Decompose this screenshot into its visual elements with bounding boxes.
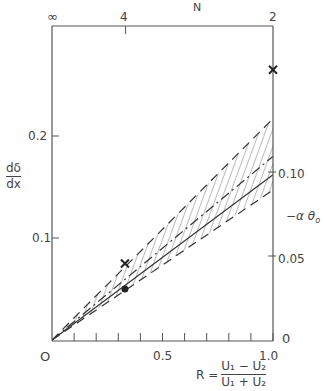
left-axis-title: dδ dx [6, 162, 21, 191]
top-tick-label-infinity: ∞ [47, 10, 58, 23]
top-axis-title: N [193, 2, 201, 13]
r-numerator: U₁ − U₂ [221, 360, 266, 373]
bottom-axis-title: R = U₁ − U₂ U₁ + U₂ [196, 360, 266, 389]
left-axis-denominator: dx [6, 178, 21, 191]
right-tick-label-0: 0 [282, 332, 290, 345]
series-lines [52, 119, 273, 340]
filled-circle-marker-1 [121, 286, 128, 293]
right-axis-title: −α θo [286, 210, 320, 225]
left-tick-label-0.1: 0.1 [32, 232, 51, 244]
top-tick-label-4: 4 [120, 11, 128, 23]
left-axis-numerator: dδ [6, 162, 21, 175]
r-prefix: R = [196, 368, 218, 382]
bottom-tick-label-0: O [40, 350, 50, 363]
left-tick-label-0.2: 0.2 [28, 130, 47, 142]
series-line-1 [52, 156, 273, 340]
series-line-2 [52, 175, 273, 340]
series-line-0 [52, 119, 273, 340]
top-tick-label-2: 2 [269, 11, 277, 23]
right-tick-label-0.10: 0.10 [278, 168, 305, 180]
right-axis-title-text: −α θ [286, 209, 315, 223]
right-axis-title-sub: o [315, 216, 320, 225]
chart-plot [0, 0, 324, 391]
right-tick-label-0.05: 0.05 [278, 253, 305, 265]
r-denominator: U₁ + U₂ [221, 376, 266, 389]
r-fraction: U₁ − U₂ U₁ + U₂ [221, 360, 266, 389]
bottom-tick-label-0.5: 0.5 [153, 350, 172, 362]
